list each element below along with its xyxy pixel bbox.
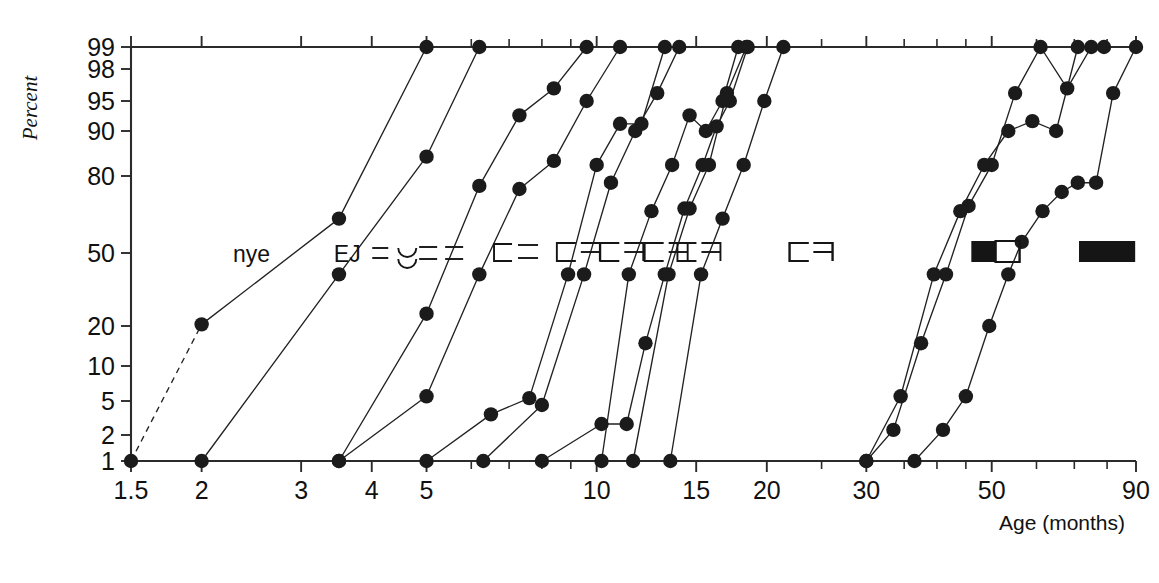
data-point <box>757 94 771 108</box>
data-point <box>579 40 593 54</box>
series-dashed-segment <box>131 324 202 461</box>
age-axis-title: Age (months) <box>999 511 1125 534</box>
data-point <box>124 454 138 468</box>
data-point <box>626 454 640 468</box>
series-label-series-8 <box>645 243 688 261</box>
data-point <box>594 417 608 431</box>
data-point <box>194 317 208 331</box>
data-point <box>613 40 627 54</box>
data-point <box>672 40 686 54</box>
series-line <box>602 47 739 461</box>
data-point <box>419 454 433 468</box>
data-point <box>419 149 433 163</box>
data-point <box>736 158 750 172</box>
data-point <box>663 454 677 468</box>
data-point <box>886 423 900 437</box>
data-point <box>1129 40 1143 54</box>
data-point <box>859 454 873 468</box>
data-point <box>622 267 636 281</box>
data-point <box>332 211 346 225</box>
data-point <box>936 423 950 437</box>
y-tick-label: 10 <box>87 352 115 380</box>
data-point <box>1025 114 1039 128</box>
y-tick-label: 5 <box>101 387 115 415</box>
data-point <box>472 179 486 193</box>
y-tick-label: 90 <box>87 117 115 145</box>
data-point <box>419 40 433 54</box>
x-tick-label: 2 <box>195 476 209 504</box>
x-tick-label: 5 <box>420 476 434 504</box>
chart-canvas: 1251020508090959899 1.52345101520305090 … <box>0 0 1159 583</box>
series-label-text: nye <box>233 241 270 267</box>
data-point <box>694 267 708 281</box>
data-point <box>535 398 549 412</box>
series-label-tofu-box-wide <box>790 243 833 261</box>
y-tick-labels: 1251020508090959899 <box>87 33 115 475</box>
data-point <box>535 454 549 468</box>
y-tick-label: 1 <box>101 447 115 475</box>
series-line <box>483 47 679 461</box>
series-label-tofu-half-filled <box>972 241 1020 262</box>
data-point <box>1071 40 1085 54</box>
data-point <box>419 306 433 320</box>
series-label-nye: nye <box>233 241 270 267</box>
data-point <box>977 158 991 172</box>
y-tick-label: 50 <box>87 239 115 267</box>
data-point <box>1049 124 1063 138</box>
data-point <box>959 389 973 403</box>
data-point <box>1071 176 1085 190</box>
data-point <box>1001 124 1015 138</box>
data-point <box>628 124 642 138</box>
data-point <box>720 86 734 100</box>
data-point <box>472 267 486 281</box>
series-label-series-7 <box>600 243 643 261</box>
percent-axis-title: Percent <box>18 75 42 142</box>
x-tick-label: 15 <box>682 476 710 504</box>
x-tick-label: 20 <box>753 476 781 504</box>
data-point <box>577 267 591 281</box>
data-point <box>1106 86 1120 100</box>
data-point <box>638 336 652 350</box>
data-point <box>682 201 696 215</box>
x-tick-label: 90 <box>1122 476 1150 504</box>
data-point <box>715 211 729 225</box>
data-point <box>914 336 928 350</box>
data-point <box>927 267 941 281</box>
y-tick-label: 95 <box>87 87 115 115</box>
data-point <box>1097 40 1111 54</box>
series-label-series-4 <box>419 247 463 259</box>
series-line <box>339 47 620 461</box>
data-point <box>982 319 996 333</box>
data-point <box>907 454 921 468</box>
x-tick-label: 30 <box>852 476 880 504</box>
data-point <box>579 94 593 108</box>
data-point <box>650 86 664 100</box>
data-point <box>419 389 433 403</box>
data-point <box>1089 176 1103 190</box>
series-label-text: EJ <box>334 241 361 267</box>
x-tick-labels: 1.52345101520305090 <box>114 476 1150 504</box>
data-point <box>604 176 618 190</box>
series-line <box>202 47 427 324</box>
data-point <box>484 407 498 421</box>
probit-plot-figure: 1251020508090959899 1.52345101520305090 … <box>0 0 1159 583</box>
data-point <box>512 182 526 196</box>
data-point <box>1035 204 1049 218</box>
data-point <box>1033 40 1047 54</box>
data-point <box>561 267 575 281</box>
data-point <box>702 158 716 172</box>
y-tick-label: 2 <box>101 421 115 449</box>
data-point <box>547 81 561 95</box>
data-point <box>739 40 753 54</box>
data-point <box>644 204 658 218</box>
data-point <box>472 40 486 54</box>
y-tick-group <box>121 47 131 461</box>
data-point <box>512 108 526 122</box>
data-point <box>1060 81 1074 95</box>
data-point <box>776 40 790 54</box>
data-point <box>1055 185 1069 199</box>
x-tick-label: 10 <box>583 476 611 504</box>
x-tick-label: 50 <box>978 476 1006 504</box>
y-tick-label: 80 <box>87 162 115 190</box>
data-point <box>1084 40 1098 54</box>
